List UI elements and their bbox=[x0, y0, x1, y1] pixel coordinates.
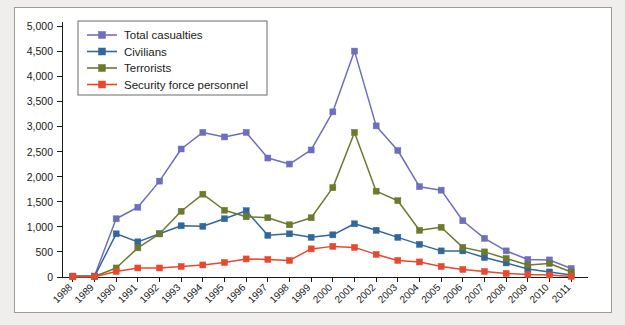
x-tick-label: 1991 bbox=[116, 281, 140, 305]
x-tick-label: 2005 bbox=[419, 281, 443, 305]
x-tick-label: 2009 bbox=[506, 281, 530, 305]
x-tick-label: 2002 bbox=[354, 281, 378, 305]
data-point-marker bbox=[92, 274, 98, 280]
data-point-marker bbox=[135, 245, 141, 251]
data-point-marker bbox=[157, 265, 163, 271]
x-tick-label: 2006 bbox=[441, 281, 465, 305]
data-point-marker bbox=[265, 215, 271, 221]
data-point-marker bbox=[113, 231, 119, 237]
legend-marker bbox=[99, 48, 106, 55]
data-point-marker bbox=[135, 265, 141, 271]
data-point-marker bbox=[438, 263, 444, 269]
data-point-marker bbox=[352, 48, 358, 54]
x-tick-label: 2010 bbox=[527, 281, 551, 305]
y-tick-label: 1,000 bbox=[27, 221, 53, 233]
data-point-marker bbox=[135, 239, 141, 245]
x-tick-label: 2007 bbox=[462, 281, 486, 305]
data-point-marker bbox=[200, 191, 206, 197]
data-point-marker bbox=[482, 235, 488, 241]
x-tick-label: 1995 bbox=[202, 281, 226, 305]
data-point-marker bbox=[222, 259, 228, 265]
data-point-marker bbox=[525, 271, 531, 277]
data-point-marker bbox=[547, 260, 553, 266]
data-point-marker bbox=[265, 155, 271, 161]
y-tick-label: 2,000 bbox=[27, 171, 53, 183]
plot-area: 05001,0001,5002,0002,5003,0003,5004,0004… bbox=[15, 8, 613, 314]
data-point-marker bbox=[243, 214, 249, 220]
y-tick-label: 0 bbox=[47, 271, 53, 283]
x-axis-ticks: 1988198919901991199219931994199519961997… bbox=[51, 277, 573, 305]
x-tick-label: 1989 bbox=[72, 281, 96, 305]
data-point-marker bbox=[417, 259, 423, 265]
data-point-marker bbox=[287, 222, 293, 228]
y-tick-label: 500 bbox=[35, 246, 53, 258]
data-point-marker bbox=[157, 178, 163, 184]
data-point-marker bbox=[243, 129, 249, 135]
data-point-marker bbox=[352, 244, 358, 250]
legend-marker bbox=[99, 32, 106, 39]
series-line bbox=[73, 246, 571, 276]
legend-item-label: Civilians bbox=[124, 46, 167, 58]
data-point-marker bbox=[265, 256, 271, 262]
data-point-marker bbox=[330, 232, 336, 238]
data-point-marker bbox=[157, 231, 163, 237]
data-point-marker bbox=[330, 185, 336, 191]
data-point-marker bbox=[113, 268, 119, 274]
data-point-marker bbox=[373, 227, 379, 233]
data-point-marker bbox=[308, 234, 314, 240]
data-point-marker bbox=[330, 243, 336, 249]
data-point-marker bbox=[482, 249, 488, 255]
legend-item-label: Security force personnel bbox=[124, 79, 248, 91]
chart-frame: 05001,0001,5002,0002,5003,0003,5004,0004… bbox=[14, 7, 612, 313]
data-point-marker bbox=[113, 216, 119, 222]
legend-item-label: Terrorists bbox=[124, 62, 172, 74]
data-point-marker bbox=[178, 223, 184, 229]
data-point-marker bbox=[395, 234, 401, 240]
data-point-marker bbox=[222, 216, 228, 222]
x-tick-label: 1992 bbox=[137, 281, 161, 305]
y-tick-label: 1,500 bbox=[27, 196, 53, 208]
data-point-marker bbox=[417, 241, 423, 247]
x-tick-label: 1988 bbox=[51, 281, 75, 305]
series-line bbox=[73, 211, 571, 277]
data-point-marker bbox=[460, 244, 466, 250]
data-point-marker bbox=[178, 208, 184, 214]
data-point-marker bbox=[70, 274, 76, 280]
data-point-marker bbox=[525, 256, 531, 262]
legend-item-label: Total casualties bbox=[124, 29, 203, 41]
data-point-marker bbox=[308, 147, 314, 153]
data-point-marker bbox=[503, 255, 509, 261]
data-point-marker bbox=[222, 207, 228, 213]
data-point-marker bbox=[547, 272, 553, 278]
x-tick-label: 1999 bbox=[289, 281, 313, 305]
data-point-marker bbox=[482, 254, 488, 260]
data-point-marker bbox=[287, 257, 293, 263]
x-tick-label: 2000 bbox=[311, 281, 335, 305]
data-point-marker bbox=[352, 129, 358, 135]
data-point-marker bbox=[243, 208, 249, 214]
x-tick-label: 2001 bbox=[332, 281, 356, 305]
data-point-marker bbox=[287, 231, 293, 237]
data-point-marker bbox=[503, 270, 509, 276]
y-axis-ticks: 05001,0001,5002,0002,5003,0003,5004,0004… bbox=[27, 20, 62, 283]
x-tick-label: 2003 bbox=[376, 281, 400, 305]
x-tick-label: 2008 bbox=[484, 281, 508, 305]
x-tick-label: 2004 bbox=[397, 281, 421, 305]
data-point-marker bbox=[438, 224, 444, 230]
data-point-marker bbox=[373, 123, 379, 129]
data-point-marker bbox=[308, 246, 314, 252]
chart-screenshot: 05001,0001,5002,0002,5003,0003,5004,0004… bbox=[0, 0, 625, 325]
legend-marker bbox=[99, 81, 106, 88]
line-chart: 05001,0001,5002,0002,5003,0003,5004,0004… bbox=[15, 8, 613, 314]
data-point-marker bbox=[460, 218, 466, 224]
data-point-marker bbox=[265, 232, 271, 238]
data-point-marker bbox=[373, 251, 379, 257]
data-point-marker bbox=[287, 161, 293, 167]
data-point-marker bbox=[373, 188, 379, 194]
data-point-marker bbox=[308, 215, 314, 221]
x-tick-label: 1993 bbox=[159, 281, 183, 305]
data-point-marker bbox=[200, 223, 206, 229]
data-point-marker bbox=[222, 134, 228, 140]
data-point-marker bbox=[200, 129, 206, 135]
series-terrorists bbox=[70, 129, 574, 279]
